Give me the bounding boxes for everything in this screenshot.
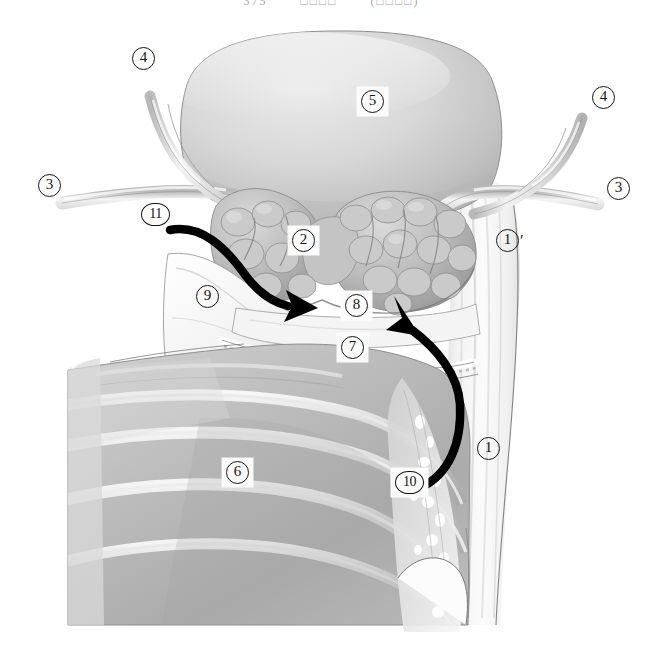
- callout-1-prime: 1′: [496, 229, 524, 252]
- prime-mark: ′: [520, 232, 524, 249]
- callout-10-arrow-origin: 10: [391, 468, 428, 497]
- callout-3-left: 3: [38, 174, 61, 197]
- callout-4-right: 4: [592, 86, 615, 109]
- header-fragment-1: 375: [244, 0, 268, 8]
- callout-2-number: 2: [292, 229, 315, 252]
- callout-3-left-number: 3: [38, 174, 61, 197]
- callout-9-number: 9: [196, 285, 219, 308]
- callout-5-number: 5: [361, 90, 384, 113]
- anatomical-illustration: [0, 18, 663, 633]
- callout-7-number: 7: [341, 336, 364, 359]
- callout-1-rectum-wall: 1: [477, 437, 500, 460]
- callout-6-number: 6: [226, 461, 249, 484]
- callout-9-fascia: 9: [196, 285, 219, 308]
- callout-4-left: 4: [132, 47, 155, 70]
- callout-2-seminal-vesicle: 2: [288, 226, 319, 255]
- callout-1-prime-number: 1: [496, 229, 519, 252]
- header-fragment-3: (□□□□): [371, 0, 420, 8]
- callout-3-right-number: 3: [607, 177, 630, 200]
- callout-11-arrow-origin: 11: [141, 203, 170, 226]
- callout-11-number: 11: [141, 203, 170, 226]
- callout-1-number: 1: [477, 437, 500, 460]
- callout-7-layer: 7: [337, 333, 368, 362]
- figure-page: 375 □□□□ (□□□□): [0, 0, 663, 649]
- callout-8-layer: 8: [341, 291, 372, 320]
- callout-8-number: 8: [345, 294, 368, 317]
- header-fragment-2: □□□□: [301, 0, 338, 8]
- running-header: 375 □□□□ (□□□□): [0, 0, 663, 10]
- callout-10-number: 10: [395, 471, 424, 494]
- callout-4-right-number: 4: [592, 86, 615, 109]
- callout-3-right: 3: [607, 177, 630, 200]
- callout-6-muscle: 6: [222, 458, 253, 487]
- callout-4-left-number: 4: [132, 47, 155, 70]
- callout-5-bladder: 5: [357, 87, 388, 116]
